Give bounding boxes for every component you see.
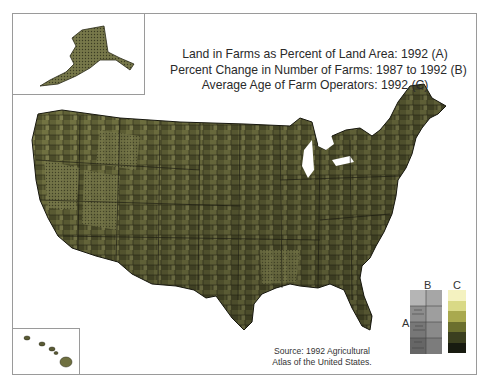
title-line-b: Percent Change in Number of Farms: 1987 … — [170, 63, 460, 79]
source-line-2: Atlas of the United States. — [262, 357, 382, 368]
legend-c-swatch-2 — [448, 301, 466, 312]
legend-c-swatch-3 — [448, 311, 466, 322]
us-landmass — [32, 84, 446, 330]
source-line-1: Source: 1992 Agricultural — [262, 346, 382, 357]
legend-label-a: A — [402, 317, 409, 329]
legend-c-swatch-5 — [448, 332, 466, 343]
alaska-inset-box — [12, 13, 145, 95]
legend-c-swatch-1 — [448, 290, 466, 301]
title-line-c: Average Age of Farm Operators: 1992 (C) — [170, 78, 460, 94]
map-title: Land in Farms as Percent of Land Area: 1… — [170, 47, 460, 94]
legend-ab-texture-grid — [410, 290, 442, 354]
legend-c-color-scale — [448, 290, 466, 353]
legend-c-swatch-6 — [448, 343, 466, 354]
hawaii-inset-box — [12, 328, 80, 375]
source-note: Source: 1992 Agricultural Atlas of the U… — [262, 346, 382, 368]
legend-c-swatch-4 — [448, 322, 466, 333]
title-line-a: Land in Farms as Percent of Land Area: 1… — [170, 47, 460, 63]
